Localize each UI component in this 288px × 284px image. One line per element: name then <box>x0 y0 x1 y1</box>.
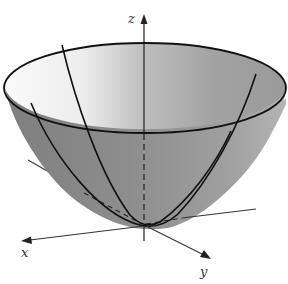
x-axis-arrowhead <box>21 237 32 245</box>
z-axis-label: z <box>128 12 135 25</box>
y-axis-front <box>146 226 204 255</box>
z-axis-arrowhead <box>141 14 148 24</box>
paraboloid-diagram: z x y <box>0 0 288 284</box>
x-axis-front <box>30 226 144 240</box>
y-axis-arrowhead <box>200 250 211 259</box>
paraboloid-svg <box>0 0 288 284</box>
x-axis-label: x <box>21 246 28 259</box>
y-axis-label: y <box>200 265 207 278</box>
